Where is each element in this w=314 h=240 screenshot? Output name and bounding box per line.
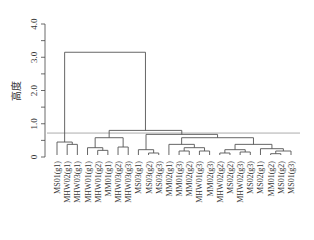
leaf-label: MS03(g1) [134, 161, 143, 194]
leaf-label: MHW01(g1) [84, 161, 93, 203]
y-tick-label: 4.0 [29, 18, 39, 30]
leaf-label: MS03(g2) [145, 161, 154, 194]
y-tick-label: 0 [29, 154, 39, 159]
leaf-label: MM02(g2) [185, 161, 194, 197]
leaf-label: MS02(g1) [256, 161, 265, 194]
leaf-label: MHW03(g1) [73, 161, 82, 203]
leaf-labels: MS01(g1)MHW02(g1)MHW03(g1)MHW01(g1)MHW01… [53, 161, 296, 203]
leaf-label: MS03(g3) [155, 161, 164, 194]
leaf-label: MS02(g2) [226, 161, 235, 194]
leaf-label: MM01(g3) [175, 161, 184, 197]
y-tick-label: 3.0 [29, 51, 39, 63]
y-axis-label: 高度 [10, 81, 22, 101]
dendrogram-chart: 01.02.03.04.0 高度 MS01(g1)MHW02(g1)MHW03(… [0, 0, 314, 240]
leaf-label: MHW01(g3) [195, 161, 204, 203]
leaf-label: MHW03(g2) [114, 161, 123, 203]
dendrogram-branches [57, 52, 291, 155]
leaf-label: MHW03(g3) [124, 161, 133, 203]
y-axis: 01.02.03.04.0 [29, 18, 45, 159]
y-tick-label: 2.0 [29, 84, 39, 96]
leaf-label: MS01(g2) [277, 161, 286, 194]
y-tick-label: 1.0 [29, 118, 39, 130]
leaf-label: MS01(g3) [287, 161, 296, 194]
leaf-label: MM01(g1) [104, 161, 113, 197]
leaf-label: MM02(g3) [206, 161, 215, 197]
leaf-label: MS02(g3) [246, 161, 255, 194]
leaf-label: MHW02(g2) [216, 161, 225, 203]
leaf-label: MHW01(g2) [94, 161, 103, 203]
leaf-label: MHW02(g3) [236, 161, 245, 203]
leaf-label: MHW02(g1) [63, 161, 72, 203]
leaf-label: MS01(g1) [53, 161, 62, 194]
leaf-label: MM02(g1) [165, 161, 174, 197]
leaf-label: MM01(g2) [267, 161, 276, 197]
